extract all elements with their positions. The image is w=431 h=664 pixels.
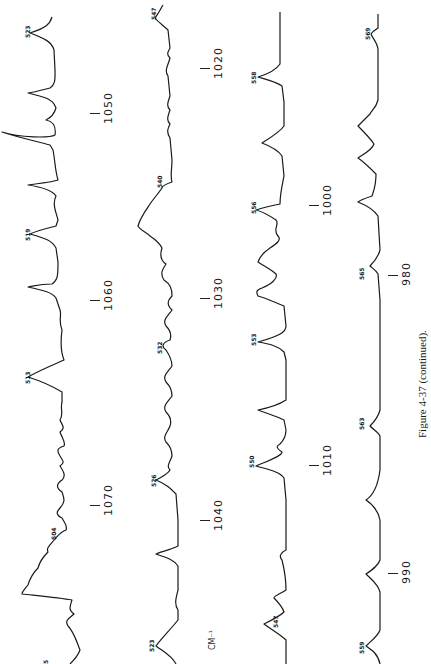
peak-label: 550 — [248, 455, 255, 468]
peak-label: 523 — [24, 25, 31, 38]
trace-3-line — [256, 12, 286, 664]
peak-label: 532 — [156, 341, 163, 354]
axis-tick-label: 990 — [400, 560, 413, 584]
axis-tick — [388, 573, 398, 574]
peak-label: 513 — [24, 371, 31, 384]
axis-tick — [200, 298, 210, 299]
axis-tick — [90, 505, 100, 506]
axis-tick-label: 1020 — [212, 47, 225, 79]
axis-tick — [309, 465, 319, 466]
peak-label: 569 — [364, 27, 371, 40]
figure-caption: Figure 4-37 (continued). — [416, 330, 428, 438]
axis-tick-label: 1070 — [102, 484, 115, 516]
axis-tick-label: 1010 — [321, 444, 334, 476]
axis-tick — [90, 300, 100, 301]
axis-tick — [309, 205, 319, 206]
axis-unit-label: CM⁻¹ — [208, 630, 217, 650]
trace-2-line — [138, 5, 178, 664]
axis-tick-label: 980 — [400, 262, 413, 286]
axis-tick — [388, 275, 398, 276]
peak-label: 547 — [150, 7, 157, 20]
axis-tick — [90, 113, 100, 114]
axis-tick-label: 1050 — [102, 92, 115, 124]
axis-tick — [200, 520, 210, 521]
trace-4-line — [358, 14, 380, 664]
peak-label: 563 — [358, 417, 365, 430]
peak-label: 553 — [250, 333, 257, 346]
axis-tick-label: 1040 — [212, 499, 225, 531]
peak-label: 547 — [272, 615, 279, 628]
axis-tick — [200, 68, 210, 69]
spectrum-traces — [0, 0, 431, 664]
axis-tick-label: 1000 — [321, 184, 334, 216]
peak-label: 540 — [156, 175, 163, 188]
peak-label: 5 — [42, 660, 49, 664]
axis-tick-label: 1030 — [212, 277, 225, 309]
peak-label: 565 — [358, 267, 365, 280]
trace-1-line — [2, 17, 80, 664]
peak-label: 559 — [358, 641, 365, 654]
peak-label: 558 — [250, 71, 257, 84]
peak-label: 523 — [148, 639, 155, 652]
peak-label: 526 — [150, 474, 157, 487]
peak-label: 519 — [24, 228, 31, 241]
axis-tick-label: 1060 — [102, 279, 115, 311]
spectrum-figure: 523 519 513 504 5 547 540 532 526 523 55… — [0, 0, 431, 664]
peak-label: 556 — [250, 201, 257, 214]
peak-label: 504 — [50, 527, 57, 540]
